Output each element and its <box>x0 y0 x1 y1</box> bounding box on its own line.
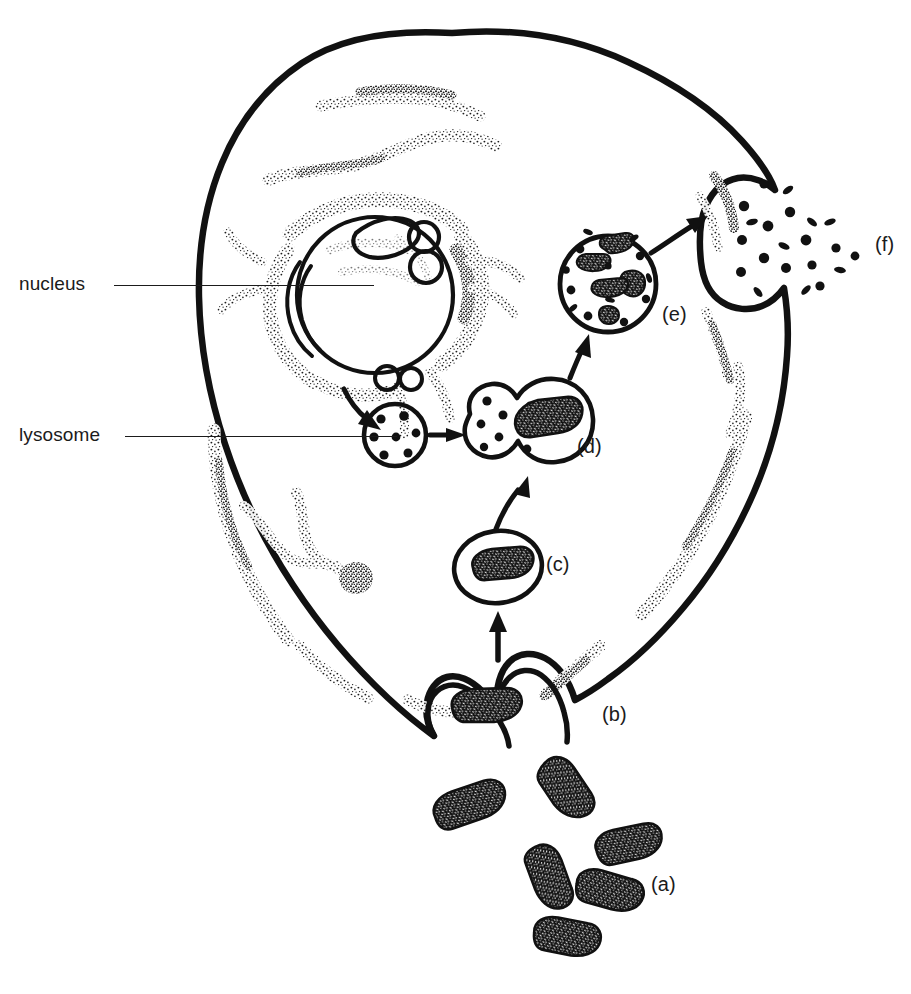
bacterium <box>522 840 577 915</box>
diagram-canvas <box>0 0 911 994</box>
stage-label-e: (e) <box>662 304 687 324</box>
stage-label-f: (f) <box>875 234 894 254</box>
bacterium <box>572 863 648 918</box>
stage-d-fusion-vesicle <box>465 379 593 462</box>
stage-f-exocytosis <box>736 179 859 298</box>
stage-label-a: (a) <box>651 874 676 894</box>
stage-d-bacterium <box>515 397 582 437</box>
phagocytosis-figure: nucleus lysosome (a) (b) (c) (d) (e) (f) <box>0 0 911 994</box>
arrow-d-to-e <box>570 334 591 378</box>
label-lysosome: lysosome <box>19 425 100 444</box>
stage-c-phagosome <box>449 525 546 609</box>
arrow-c-to-d <box>496 476 530 529</box>
bacterium <box>430 778 509 831</box>
stage-f-released-debris <box>736 179 859 298</box>
label-nucleus: nucleus <box>19 274 85 293</box>
stage-label-b: (b) <box>602 704 627 724</box>
stage-label-c: (c) <box>546 554 570 574</box>
stage-label-d: (d) <box>577 436 602 456</box>
leader-line-lysosome <box>125 436 397 437</box>
bacterium <box>530 912 603 962</box>
arrow-b-to-c <box>489 611 507 660</box>
stage-a-free-bacteria <box>430 750 664 962</box>
bacterium <box>593 821 664 866</box>
endoplasmic-reticulum <box>214 89 746 712</box>
lysosome <box>364 404 426 466</box>
stage-e-phagolysosome <box>560 228 656 332</box>
bacterium <box>532 750 600 826</box>
arrow-lysosome-to-d <box>430 428 466 442</box>
leader-line-nucleus <box>114 285 374 286</box>
nucleus <box>222 200 520 434</box>
